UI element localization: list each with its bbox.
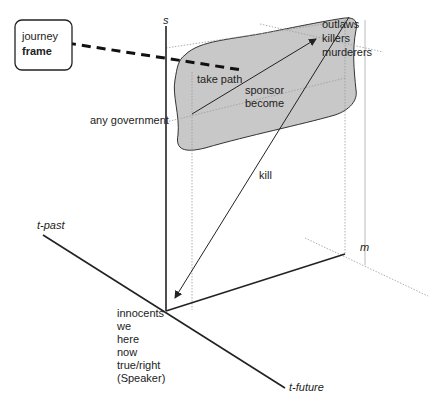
- origin-label-here: here: [117, 333, 139, 345]
- m-axis-label: m: [360, 241, 369, 253]
- origin-label-speaker: (Speaker): [117, 372, 165, 384]
- origin-label-now: now: [117, 346, 137, 358]
- kill-label: kill: [259, 169, 272, 181]
- sponsor-label: sponsor: [245, 84, 284, 96]
- origin-label-innocents: innocents: [117, 307, 165, 319]
- m-axis: [166, 254, 345, 311]
- s-axis-label: s: [163, 14, 169, 26]
- any-government-label: any government: [90, 114, 169, 126]
- origin-label-true-right: true/right: [117, 359, 160, 371]
- take-path-label: take path: [197, 73, 242, 85]
- origin-label-we: we: [116, 320, 131, 332]
- target-label-outlaws: outlaws: [322, 18, 360, 30]
- t-future-label: t-future: [289, 381, 324, 393]
- become-label: become: [245, 97, 284, 109]
- frame-line1: journey: [21, 30, 59, 42]
- frame-line2: frame: [22, 45, 52, 57]
- target-label-killers: killers: [322, 32, 351, 44]
- target-label-murderers: murderers: [322, 46, 373, 58]
- t-past-label: t-past: [37, 219, 65, 231]
- conceptual-space-diagram: journey frame s m t-past t-future outlaw…: [0, 0, 441, 407]
